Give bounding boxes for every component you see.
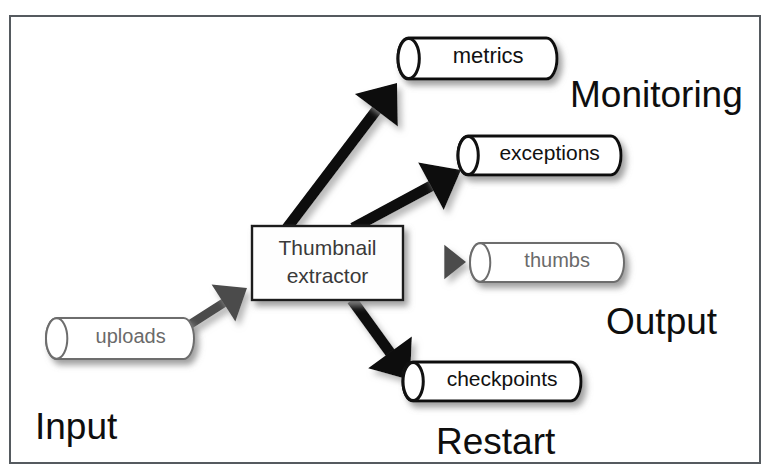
datastore-exceptions[interactable] [458, 136, 621, 175]
arrow-shaft [352, 300, 391, 354]
cylinder-cap [458, 136, 478, 174]
datastore-thumbs[interactable] [470, 243, 624, 282]
shapes-group [46, 38, 624, 401]
cylinder-body[interactable] [458, 136, 621, 175]
diagram-canvas: metricsexceptionsthumbscheckpointsupload… [0, 0, 772, 476]
region-label-input: Input [35, 408, 117, 445]
arrow-shaft [287, 109, 377, 228]
process-node-thumbnail-extractor[interactable] [252, 226, 403, 300]
datastore-metrics[interactable] [398, 38, 557, 79]
cylinder-body[interactable] [403, 362, 581, 401]
cylinder-cap [46, 318, 67, 358]
arrow-head [444, 245, 466, 279]
cylinder-body[interactable] [470, 243, 624, 282]
cylinder-cap [403, 362, 423, 400]
cylinder-cap [470, 243, 490, 281]
cylinder-cap [398, 38, 419, 78]
datastore-checkpoints[interactable] [403, 362, 581, 401]
datastore-uploads[interactable] [46, 318, 194, 359]
arrow-uploads-to-extractor [186, 284, 247, 327]
arrow-extractor-to-metrics [287, 83, 398, 228]
region-label-restart: Restart [436, 423, 555, 460]
arrow-extractor-to-thumbs [404, 245, 466, 279]
diagram-graphics [0, 0, 772, 476]
region-label-monitoring: Monitoring [570, 76, 743, 113]
arrow-head [355, 83, 398, 126]
process-box[interactable] [252, 226, 403, 300]
arrow-shaft [186, 302, 225, 327]
arrow-extractor-to-exceptions [353, 162, 461, 228]
region-label-output: Output [606, 303, 717, 340]
cylinder-body[interactable] [398, 38, 557, 79]
arrow-extractor-to-checkpoints [352, 300, 412, 380]
arrow-shaft [353, 185, 432, 228]
